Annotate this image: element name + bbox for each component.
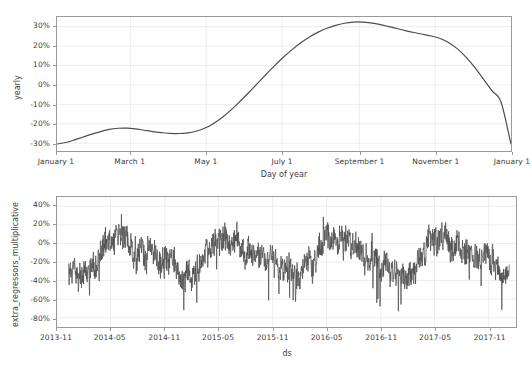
extra-regressors-x-tick-label: 2013-11: [40, 334, 72, 342]
yearly-x-tick-label: November 1: [412, 158, 459, 166]
extra-regressors-y-tick-label: 40%: [0, 202, 50, 210]
yearly-y-tick-label: -10%: [0, 101, 50, 109]
extra-regressors-x-tick-mark: [218, 328, 219, 331]
extra-regressors-y-tick-label: -80%: [0, 315, 50, 323]
yearly-x-tick-mark: [56, 152, 57, 155]
extra-regressors-x-tick-mark: [110, 328, 111, 331]
yearly-gridlines: [57, 17, 511, 151]
prophet-components-figure: yearly 30%20%10%0%-10%-20%-30% January 1…: [0, 0, 532, 373]
yearly-x-tick-label: January 1: [494, 158, 531, 166]
yearly-x-tick-label: September 1: [335, 158, 385, 166]
extra-regressors-x-tick-mark: [273, 328, 274, 331]
extra-regressors-x-tick-mark: [164, 328, 165, 331]
extra-regressors-y-tick-label: -20%: [0, 258, 50, 266]
yearly-y-tick-label: -30%: [0, 140, 50, 148]
yearly-y-tick-label: 20%: [0, 42, 50, 50]
yearly-x-tick-mark: [512, 152, 513, 155]
extra-regressors-y-tick-label: -40%: [0, 277, 50, 285]
yearly-x-tick-label: May 1: [194, 158, 217, 166]
extra-regressors-panel: extra_regressors_multiplicative 40%20%0%…: [0, 186, 532, 373]
extra-regressors-x-tick-label: 2017-05: [419, 334, 451, 342]
yearly-x-tick-mark: [436, 152, 437, 155]
extra-regressors-plot-svg: [57, 197, 516, 327]
yearly-x-tick-mark: [206, 152, 207, 155]
extra-regressors-x-tick-label: 2016-11: [365, 334, 397, 342]
yearly-x-tick-mark: [282, 152, 283, 155]
extra-regressors-x-tick-mark: [490, 328, 491, 331]
yearly-seasonality-curve: [57, 22, 511, 144]
yearly-y-tick-label: 0%: [0, 81, 50, 89]
extra-regressors-x-tick-label: 2014-05: [94, 334, 126, 342]
extra-regressors-x-tick-label: 2015-05: [202, 334, 234, 342]
extra-regressors-x-tick-mark: [435, 328, 436, 331]
yearly-x-tick-label: March 1: [114, 158, 145, 166]
yearly-plot-area: [56, 16, 512, 152]
extra-regressors-x-tick-label: 2017-11: [474, 334, 506, 342]
extra-regressors-x-tick-mark: [327, 328, 328, 331]
yearly-plot-svg: [57, 17, 511, 151]
extra-regressors-y-tick-label: 0%: [0, 239, 50, 247]
extra-regressors-plot-area: [56, 196, 517, 328]
extra-regressors-y-tick-label: 20%: [0, 221, 50, 229]
extra-regressors-x-axis-label: ds: [282, 350, 291, 358]
yearly-y-tick-label: -20%: [0, 121, 50, 129]
yearly-x-tick-label: July 1: [272, 158, 293, 166]
extra-regressors-x-tick-mark: [56, 328, 57, 331]
yearly-x-tick-label: January 1: [38, 158, 75, 166]
yearly-y-tick-label: 10%: [0, 62, 50, 70]
extra-regressors-x-tick-mark: [381, 328, 382, 331]
yearly-seasonality-panel: yearly 30%20%10%0%-10%-20%-30% January 1…: [0, 0, 532, 186]
yearly-x-tick-mark: [360, 152, 361, 155]
yearly-y-tick-label: 30%: [0, 22, 50, 30]
yearly-x-axis-label: Day of year: [261, 171, 307, 179]
extra-regressors-series: [69, 214, 510, 311]
extra-regressors-x-tick-label: 2015-11: [257, 334, 289, 342]
yearly-x-tick-mark: [130, 152, 131, 155]
extra-regressors-y-tick-label: -60%: [0, 296, 50, 304]
extra-regressors-x-tick-label: 2014-11: [148, 334, 180, 342]
extra-regressors-x-tick-label: 2016-05: [311, 334, 343, 342]
